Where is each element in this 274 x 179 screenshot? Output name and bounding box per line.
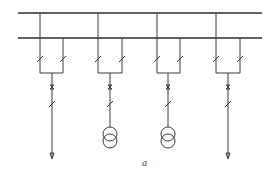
bay-1: [37, 13, 66, 159]
bay-4: [213, 13, 243, 159]
bay-3: [154, 13, 183, 148]
double-busbar-diagram: a: [0, 0, 274, 179]
bay-2: [95, 13, 125, 148]
figure-caption: a: [142, 158, 147, 168]
